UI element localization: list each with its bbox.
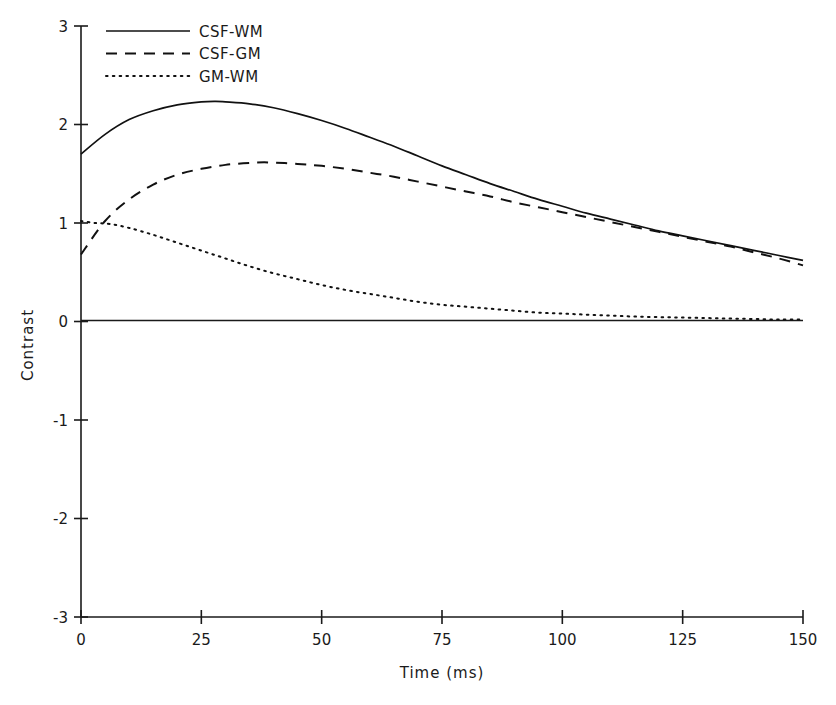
y-tick-labels: -3-2-10123 [53,18,68,627]
x-tick-label: 0 [76,631,86,649]
x-tick-label: 125 [668,631,697,649]
x-tick-label: 25 [192,631,211,649]
y-axis-title: Contrast [19,309,37,381]
legend-label-gm-wm: GM-WM [199,68,259,86]
legend-label-csf-gm: CSF-GM [199,45,261,63]
x-tick-label: 75 [432,631,451,649]
x-tick-label: 150 [789,631,818,649]
y-tick-label: 2 [58,116,68,134]
x-tick-label: 50 [312,631,331,649]
line-chart: -3-2-10123 0255075100125150 Time (ms) Co… [0,0,836,705]
chart-legend: CSF-WMCSF-GMGM-WM [106,23,263,86]
series-line-csf-wm [81,101,803,260]
y-tick-label: 3 [58,18,68,36]
y-tick-label: -1 [53,412,68,430]
series-line-csf-gm [81,162,803,265]
x-tick-labels: 0255075100125150 [76,631,817,649]
figure-container: -3-2-10123 0255075100125150 Time (ms) Co… [0,0,836,705]
legend-label-csf-wm: CSF-WM [199,23,263,41]
data-series-group [81,101,803,319]
x-tick-label: 100 [548,631,577,649]
x-axis-title: Time (ms) [399,664,485,682]
y-tick-label: -2 [53,510,68,528]
y-tick-label: 0 [58,313,68,331]
y-tick-label: -3 [53,609,68,627]
series-line-gm-wm [81,221,803,320]
y-tick-label: 1 [58,215,68,233]
